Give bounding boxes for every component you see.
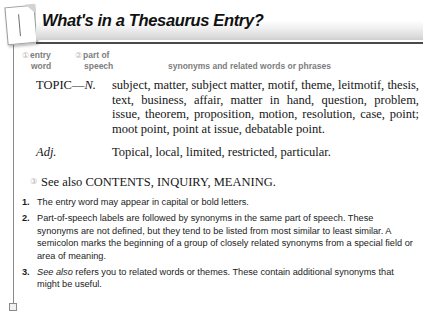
see-also-line: ③See also CONTENTS, INQUIRY, MEANING. (30, 174, 276, 190)
note-number-2: 2. (22, 212, 37, 224)
part-of-speech-noun: N. (84, 78, 95, 92)
note-number-3: 3. (22, 266, 37, 278)
page-title: What's in a Thesaurus Entry? (42, 11, 264, 30)
see-also-text: See also CONTENTS, INQUIRY, MEANING. (41, 175, 276, 189)
thesaurus-entry: TOPIC—N. subject, matter, subject matter… (36, 78, 419, 160)
entry-pos-label-adjective: Adj. (36, 145, 112, 160)
column-label-entry-word: ①entry word (22, 50, 51, 71)
entry-synonyms-adjective: Topical, local, limited, restricted, par… (112, 145, 419, 160)
note-body-1: The entry word may appear in capital or … (37, 197, 249, 207)
entry-synonyms-noun: subject, matter, subject matter, motif, … (112, 78, 419, 136)
note-text-2: Part-of-speech labels are followed by sy… (37, 212, 416, 262)
column-label-entry-word-line1: entry (30, 50, 51, 60)
column-labels: ①entry word ②part of speech synonyms and… (22, 50, 417, 72)
column-label-part-of-speech: ②part of speech (75, 50, 113, 71)
note-italic-lead-3: See also (37, 267, 73, 277)
entry-word-topic: TOPIC— (36, 78, 84, 92)
circled-number-3-icon: ③ (30, 177, 37, 186)
entry-pos-label-noun: TOPIC—N. (36, 78, 112, 93)
note-number-1: 1. (22, 196, 37, 208)
column-label-entry-word-line2: word (31, 61, 51, 71)
header-divider (36, 42, 423, 44)
note-item-3: 3. See also refers you to related words … (22, 266, 416, 291)
note-body-2: Part-of-speech labels are followed by sy… (37, 213, 413, 260)
note-text-3: See also refers you to related words or … (37, 266, 416, 291)
circled-number-1-icon: ① (22, 51, 29, 60)
note-body-3: refers you to related words or themes. T… (37, 267, 394, 289)
left-margin-rule (13, 30, 14, 305)
column-label-part-of-speech-line1: part of (83, 50, 109, 60)
circled-number-2-icon: ② (75, 51, 82, 60)
column-label-part-of-speech-line2: speech (84, 61, 113, 71)
note-text-1: The entry word may appear in capital or … (37, 196, 416, 208)
column-label-synonyms: synonyms and related words or phrases (168, 61, 331, 71)
entry-row-adjective: Adj. Topical, local, limited, restricted… (36, 145, 419, 160)
left-margin-rule-cap (9, 303, 17, 311)
page-corner-icon (4, 5, 37, 45)
notes-list: 1. The entry word may appear in capital … (22, 196, 416, 295)
note-item-2: 2. Part-of-speech labels are followed by… (22, 212, 416, 262)
header: What's in a Thesaurus Entry? (36, 6, 423, 44)
note-item-1: 1. The entry word may appear in capital … (22, 196, 416, 208)
page-corner-fold (25, 4, 36, 15)
part-of-speech-adjective: Adj. (36, 145, 56, 159)
entry-row-noun: TOPIC—N. subject, matter, subject matter… (36, 78, 419, 136)
